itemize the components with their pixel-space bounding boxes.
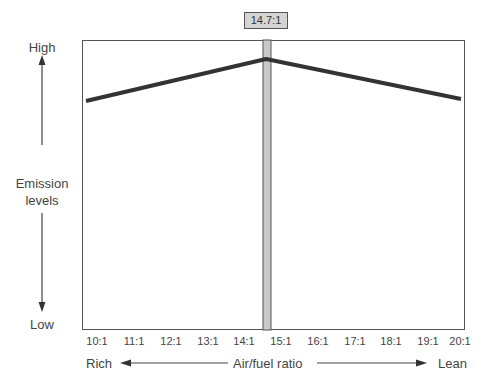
x-tick: 13:1 xyxy=(188,335,228,347)
arrow-left-icon xyxy=(120,360,131,367)
arrow-down-icon xyxy=(39,302,46,312)
y-axis-label-line1: Emission xyxy=(12,176,72,191)
x-tick: 18:1 xyxy=(371,335,411,347)
x-tick: 17:1 xyxy=(335,335,375,347)
x-axis-label: Air/fuel ratio xyxy=(233,356,302,371)
x-tick: 14:1 xyxy=(224,335,264,347)
arrow-right-icon xyxy=(416,360,427,367)
x-tick: 20:1 xyxy=(440,335,480,347)
x-tick: 11:1 xyxy=(114,335,154,347)
lean-label: Lean xyxy=(438,356,467,371)
x-tick: 12:1 xyxy=(151,335,191,347)
x-tick: 15:1 xyxy=(261,335,301,347)
y-axis-label-line2: levels xyxy=(12,193,72,208)
x-tick: 10:1 xyxy=(77,335,117,347)
y-high-label: High xyxy=(24,40,60,55)
arrow-up-icon xyxy=(39,55,46,65)
chart-svg xyxy=(0,0,485,383)
emission-line xyxy=(86,59,461,101)
x-tick: 16:1 xyxy=(298,335,338,347)
rich-label: Rich xyxy=(86,356,112,371)
stoichiometric-band xyxy=(263,40,271,330)
stoichiometric-callout: 14.7:1 xyxy=(244,12,288,29)
y-low-label: Low xyxy=(24,317,60,332)
